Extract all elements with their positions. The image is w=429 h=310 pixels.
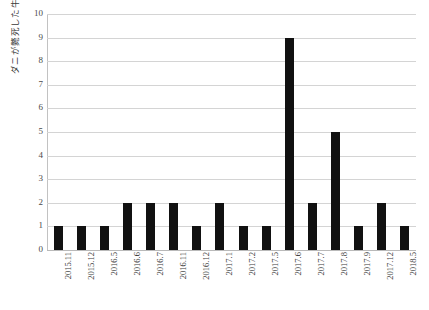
gridline [47, 61, 416, 62]
bar [123, 203, 132, 250]
x-tick-label: 2016.11 [178, 252, 188, 304]
gridline [47, 85, 416, 86]
y-tick-label: 10 [21, 9, 43, 18]
bar [262, 226, 271, 250]
plot-area [47, 14, 416, 250]
gridline [47, 14, 416, 15]
y-tick-label: 0 [21, 245, 43, 254]
y-tick-label: 2 [21, 198, 43, 207]
x-tick-label: 2018.5 [408, 252, 418, 304]
bar [400, 226, 409, 250]
bar [54, 226, 63, 250]
bar [192, 226, 201, 250]
bar [354, 226, 363, 250]
x-tick-label: 2017.12 [385, 252, 395, 304]
gridline [47, 156, 416, 157]
y-axis-tick-labels: 012345678910 [14, 14, 43, 250]
gridline [47, 38, 416, 39]
bar [169, 203, 178, 250]
x-tick-label: 2017.8 [339, 252, 349, 304]
x-tick-label: 2017.9 [362, 252, 372, 304]
x-axis-tick-labels: 2015.112015.122016.52016.62016.72016.112… [47, 252, 416, 308]
gridline [47, 203, 416, 204]
bar-chart-figure: ダニが斃死した牛群数 012345678910 2015.112015.1220… [0, 0, 429, 310]
y-tick-label: 5 [21, 127, 43, 136]
x-tick-label: 2015.11 [63, 252, 73, 304]
bar [308, 203, 317, 250]
x-tick-label: 2016.6 [132, 252, 142, 304]
gridline [47, 179, 416, 180]
bar [146, 203, 155, 250]
gridline [47, 250, 416, 251]
x-tick-label: 2017.7 [316, 252, 326, 304]
x-tick-label: 2016.5 [109, 252, 119, 304]
x-tick-label: 2017.6 [293, 252, 303, 304]
x-tick-label: 2016.7 [155, 252, 165, 304]
y-tick-label: 8 [21, 56, 43, 65]
bar [377, 203, 386, 250]
bar [215, 203, 224, 250]
x-tick-label: 2017.2 [247, 252, 257, 304]
gridline [47, 108, 416, 109]
bar [77, 226, 86, 250]
x-tick-label: 2017.1 [224, 252, 234, 304]
bar [100, 226, 109, 250]
y-tick-label: 1 [21, 221, 43, 230]
y-tick-label: 7 [21, 80, 43, 89]
gridline [47, 132, 416, 133]
x-tick-label: 2016.12 [201, 252, 211, 304]
y-tick-label: 3 [21, 174, 43, 183]
bar [331, 132, 340, 250]
x-tick-label: 2015.12 [86, 252, 96, 304]
y-tick-label: 9 [21, 33, 43, 42]
x-tick-label: 2017.5 [270, 252, 280, 304]
bar [285, 38, 294, 250]
y-tick-label: 6 [21, 103, 43, 112]
bar [239, 226, 248, 250]
y-tick-label: 4 [21, 151, 43, 160]
